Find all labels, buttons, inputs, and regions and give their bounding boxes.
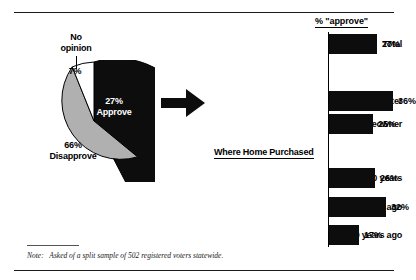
bar-value: 26%: [380, 167, 398, 189]
bar-section-header: Where Home Purchased: [214, 147, 314, 159]
bar-row-renter: Renter 36%: [200, 90, 408, 112]
bar-row-11-20-years-ago: 11 – 20 years ago 32%: [200, 196, 408, 218]
footnote-text: Asked of a split sample of 502 registere…: [49, 251, 223, 260]
pie-svg: [33, 60, 155, 182]
bar-value: 32%: [391, 196, 409, 218]
pie-label-no-opinion: No opinion: [47, 32, 105, 53]
approve-value: 27%: [105, 96, 122, 106]
bar-row-past-10-years: Past 10 years 26%: [200, 167, 408, 189]
bar-fill: [329, 91, 393, 111]
bar-fill: [329, 34, 377, 54]
pie-chart-panel: No opinion 7% 27% Approve 66% Disapprove: [0, 0, 200, 280]
bar-fill: [329, 168, 375, 188]
no-opinion-line1: No: [70, 32, 82, 42]
footnote: Note: Asked of a split sample of 502 reg…: [27, 251, 223, 260]
footnote-rule: [27, 245, 79, 246]
footnote-prefix: Note:: [27, 251, 44, 260]
disapprove-text: Disapprove: [49, 151, 96, 161]
bar-chart-header: % "approve": [315, 16, 368, 28]
pie-slice-approve: [94, 60, 155, 182]
approve-text: Approve: [96, 107, 131, 117]
pie-label-disapprove: 66% Disapprove: [38, 140, 108, 161]
bar-value: 36%: [398, 90, 416, 112]
disapprove-value: 66%: [64, 140, 81, 150]
bar-fill: [329, 197, 386, 217]
pie-chart: [33, 60, 155, 182]
no-opinion-line2: opinion: [60, 43, 91, 53]
bar-row-homeowner: Homeowner 25%: [200, 113, 408, 135]
bar-fill: [329, 114, 373, 134]
bar-value: 27%: [382, 33, 400, 55]
bar-value: 17%: [364, 224, 382, 246]
pie-label-approve: 27% Approve: [86, 96, 142, 117]
bar-row-over-20-years-ago: > 20 years ago 17%: [200, 224, 408, 246]
bar-chart-panel: % "approve" Total 27% Renter 36% Homeown…: [200, 0, 408, 280]
pie-value-no-opinion: 7%: [62, 66, 88, 77]
bar-fill: [329, 225, 359, 245]
bar-value: 25%: [378, 113, 396, 135]
bar-row-total: Total 27%: [200, 33, 408, 55]
